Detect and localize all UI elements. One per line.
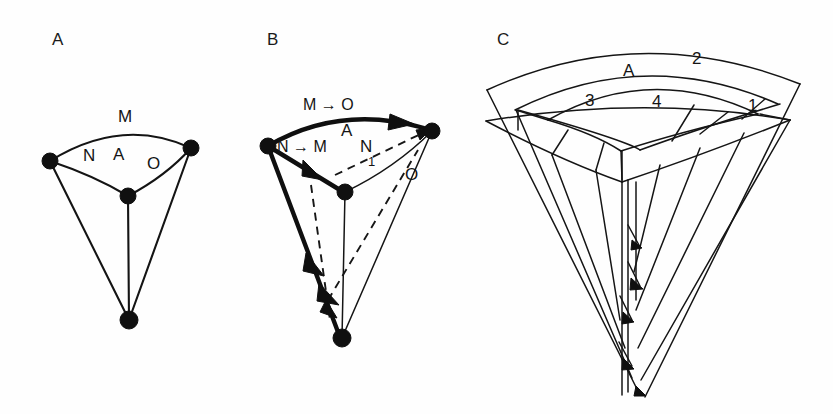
panel-c-vane-right-2: [641, 120, 790, 380]
panel-a-label-a: A: [113, 146, 124, 163]
panel-c-vane-left-2: [516, 110, 632, 378]
panel-b-label-n1: N: [360, 138, 372, 155]
panel-c-radial-1: [516, 110, 548, 120]
figure-drawing-canvas: [0, 0, 833, 414]
panel-c-radial-3: [596, 143, 604, 170]
panel-b-label-m-to-o: M → O: [303, 97, 354, 113]
panel-b-edge-center-apex: [342, 192, 345, 338]
panel-b-arrowhead-top: [388, 114, 414, 130]
panel-b-node-left: [260, 138, 276, 154]
panel-b-node-right: [424, 123, 440, 139]
panel-b-label-n-to-m: N → M: [277, 139, 327, 155]
panel-c-vane-left-4: [596, 170, 620, 320]
panel-a-edge-center-apex: [128, 196, 129, 320]
panel-label-a: A: [52, 30, 64, 50]
panel-c-label-a: A: [623, 62, 634, 79]
panel-a-node-left: [42, 153, 58, 169]
panel-c-label-3: 3: [585, 92, 594, 109]
panel-c-region-a-left: [548, 120, 621, 151]
panel-c-vane-right-5: [634, 165, 660, 272]
panel-a-label-m: M: [118, 108, 132, 125]
panel-b-node-apex: [333, 329, 351, 347]
panel-a-label-o: O: [147, 155, 160, 172]
panel-label-c: C: [497, 30, 510, 50]
panel-b-label-o: O: [405, 166, 418, 183]
panel-label-b: B: [267, 30, 279, 50]
panel-b-label-a: A: [341, 122, 352, 139]
panel-a-edge-right-apex: [129, 148, 191, 320]
panel-a-arc-n: [50, 161, 128, 196]
panel-c-radial-5: [700, 112, 728, 134]
panel-a-node-center: [120, 188, 136, 204]
panel-b-node-center: [337, 184, 353, 200]
panel-b-label-n1-subscript: 1: [368, 155, 375, 168]
panel-c-vane-left-3: [552, 155, 625, 348]
panel-a-node-right: [183, 140, 199, 156]
figure-root: A B C M N A O M → O N → M A N 1 O A 2 3 …: [0, 0, 833, 414]
panel-c-label-2: 2: [692, 50, 701, 67]
panel-a-label-n: N: [83, 147, 95, 164]
panel-b-edge-right-apex: [342, 131, 432, 338]
panel-c-label-1: 1: [748, 97, 757, 114]
panel-c-arrowhead-apex: [634, 386, 646, 396]
panel-c-vane-right-3: [638, 133, 744, 348]
panel-a-node-apex: [120, 311, 138, 329]
panel-c-vane-right-1: [645, 84, 800, 397]
panel-c-radial-2: [552, 130, 568, 155]
panel-b-arrowhead-center: [302, 160, 323, 180]
panel-c-arc-outer: [487, 53, 800, 90]
panel-c-label-4: 4: [652, 93, 661, 110]
panel-a-edge-left-apex: [50, 161, 129, 320]
